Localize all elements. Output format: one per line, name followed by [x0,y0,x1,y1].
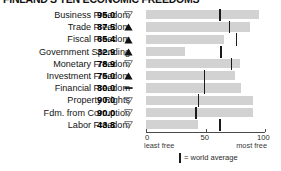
trend-indicator-down [124,58,135,70]
world-average-tick [229,21,231,33]
freedom-row: Financial Freedom80.0 [0,82,281,94]
bar-track [146,46,265,58]
triangle-up-icon [124,23,133,31]
freedom-score-value: 95.0 [97,9,121,21]
freedom-row: Fiscal Freedom65.4 [0,33,281,45]
trend-indicator-down [124,119,135,131]
world-average-tick [204,70,206,82]
trend-indicator-up [124,21,135,33]
triangle-up-icon [124,48,133,56]
world-average-tick [198,94,200,106]
bar-track [146,107,265,119]
dash-icon [124,84,133,92]
freedom-score-value: 65.4 [97,33,121,45]
axis-caption-most-free: most free [236,141,267,150]
legend-label: = world average [184,153,238,163]
score-bar [146,22,250,31]
world-average-tick [236,33,238,45]
triangle-down-outline-icon [124,97,133,105]
triangle-down-outline-icon [124,60,133,68]
freedom-row: Monetary Freedom78.9 [0,58,281,70]
freedom-score-value: 75.0 [97,70,121,82]
score-bar [146,47,185,56]
world-average-swatch-icon [179,153,181,163]
freedom-row: Labor Freedom43.8 [0,119,281,131]
triangle-up-icon [124,36,133,44]
freedom-rows: Business Freedom95.0Trade Freedom87.5Fis… [0,9,281,131]
score-bar [146,96,253,105]
world-average-tick [219,119,221,131]
axis-tick-label: 50 [201,133,209,142]
freedom-score-value: 43.8 [97,119,121,131]
freedom-row: Business Freedom95.0 [0,9,281,21]
bar-track [146,33,265,45]
world-average-tick [231,58,233,70]
freedom-score-value: 80.0 [97,82,121,94]
freedom-score-value: 32.9 [97,46,121,58]
freedom-row: Investment Freedom75.0 [0,70,281,82]
score-bar [146,10,259,19]
freedom-row: Fdm. from Corruption90.0 [0,107,281,119]
freedom-row: Government Spending32.9 [0,46,281,58]
trend-indicator-down [124,9,135,21]
trend-indicator-flat [124,82,135,94]
freedom-score-value: 78.9 [97,58,121,70]
score-bar [146,71,235,80]
freedom-score-value: 90.0 [97,94,121,106]
trend-indicator-down [124,107,135,119]
page-title: FINLAND'S TEN ECONOMIC FREEDOMS [3,0,243,5]
freedom-score-value: 87.5 [97,21,121,33]
freedom-score-value: 90.0 [97,107,121,119]
bar-track [146,82,265,94]
trend-indicator-up [124,46,135,58]
score-bar [146,108,253,117]
world-average-tick [219,9,221,21]
axis-caption-least-free: least free [144,141,174,150]
bar-track [146,9,265,21]
bar-track [146,94,265,106]
world-average-tick [204,82,206,94]
bar-track [146,21,265,33]
chart-title-clipped: FINLAND'S TEN ECONOMIC FREEDOMS [3,0,243,5]
world-average-tick [195,107,197,119]
trend-indicator-up [124,33,135,45]
score-bar [146,83,241,92]
bar-track [146,70,265,82]
triangle-down-outline-icon [124,109,133,117]
freedom-row: Trade Freedom87.5 [0,21,281,33]
trend-indicator-up [124,70,135,82]
world-average-tick [220,46,222,58]
score-bar [146,120,198,129]
triangle-down-outline-icon [124,121,133,129]
triangle-down-outline-icon [124,11,133,19]
freedom-row: Property Rights90.0 [0,94,281,106]
trend-indicator-down [124,94,135,106]
score-bar [146,59,240,68]
bar-track [146,58,265,70]
triangle-up-icon [124,72,133,80]
score-bar [146,35,224,44]
economic-freedoms-chart: FINLAND'S TEN ECONOMIC FREEDOMS Business… [0,0,281,171]
